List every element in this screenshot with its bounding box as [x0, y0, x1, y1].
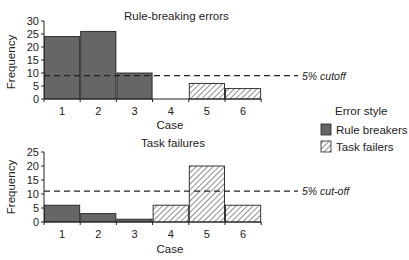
x-tick-label: 5 — [204, 105, 210, 117]
x-tick-label: 3 — [131, 105, 137, 117]
legend-label: Rule breakers — [336, 124, 408, 136]
y-axis-ticks: 0510152025 — [27, 146, 44, 228]
y-tick-label: 25 — [27, 28, 39, 40]
y-tick-label: 15 — [27, 54, 39, 66]
y-tick-label: 10 — [27, 67, 39, 79]
legend-title: Error style — [335, 105, 387, 117]
x-tick-label: 2 — [95, 228, 101, 240]
y-axis-label: Frequency — [5, 160, 17, 215]
x-tick-label: 1 — [59, 105, 65, 117]
y-tick-label: 15 — [27, 174, 39, 186]
rule-breaking-chart: Rule-breaking errors Frequency Case 0510… — [5, 10, 347, 131]
bar-task-failers — [189, 83, 224, 99]
x-tick-label: 1 — [59, 228, 65, 240]
y-tick-label: 5 — [33, 80, 39, 92]
y-tick-label: 20 — [27, 160, 39, 172]
y-tick-label: 5 — [33, 202, 39, 214]
y-tick-label: 10 — [27, 188, 39, 200]
x-tick-label: 2 — [95, 105, 101, 117]
x-tick-label: 5 — [204, 228, 210, 240]
y-tick-label: 25 — [27, 146, 39, 158]
x-axis-ticks: 123456 — [44, 222, 261, 240]
x-axis-label: Case — [157, 119, 184, 131]
y-axis-ticks: 051015202530 — [27, 15, 44, 105]
x-tick-label: 6 — [240, 228, 246, 240]
cutoff-label: 5% cut-off — [302, 185, 350, 197]
bar-rule-breakers — [45, 205, 80, 222]
y-tick-label: 30 — [27, 15, 39, 27]
y-tick-label: 0 — [33, 93, 39, 105]
bar-rule-breakers — [117, 73, 152, 99]
chart-canvas: Rule-breaking errors Frequency Case 0510… — [0, 0, 409, 260]
bars — [45, 31, 261, 99]
bar-task-failers — [189, 166, 224, 222]
bar-rule-breakers — [81, 214, 116, 222]
chart-title: Task failures — [141, 137, 205, 149]
x-tick-label: 4 — [168, 228, 174, 240]
bar-task-failers — [226, 205, 261, 222]
legend-label: Task failers — [336, 141, 394, 153]
bar-task-failers — [226, 89, 261, 99]
x-tick-label: 4 — [168, 105, 174, 117]
bars — [45, 166, 261, 222]
legend-swatch-rule-breakers — [321, 124, 331, 135]
y-tick-label: 0 — [33, 216, 39, 228]
legend: Error style Rule breakers Task failers — [321, 105, 408, 153]
x-tick-label: 6 — [240, 105, 246, 117]
x-axis-ticks: 123456 — [44, 99, 261, 117]
x-tick-label: 3 — [131, 228, 137, 240]
bar-task-failers — [153, 205, 188, 222]
chart-title: Rule-breaking errors — [124, 10, 229, 22]
legend-swatch-task-failers — [321, 141, 331, 152]
y-tick-label: 20 — [27, 41, 39, 53]
bar-rule-breakers — [45, 37, 80, 99]
cutoff-label: 5% cutoff — [302, 70, 347, 82]
task-failures-chart: Task failures Frequency Case 0510152025 … — [5, 137, 350, 255]
bar-rule-breakers — [81, 31, 116, 99]
x-axis-label: Case — [157, 243, 184, 255]
y-axis-label: Frequency — [5, 35, 17, 90]
